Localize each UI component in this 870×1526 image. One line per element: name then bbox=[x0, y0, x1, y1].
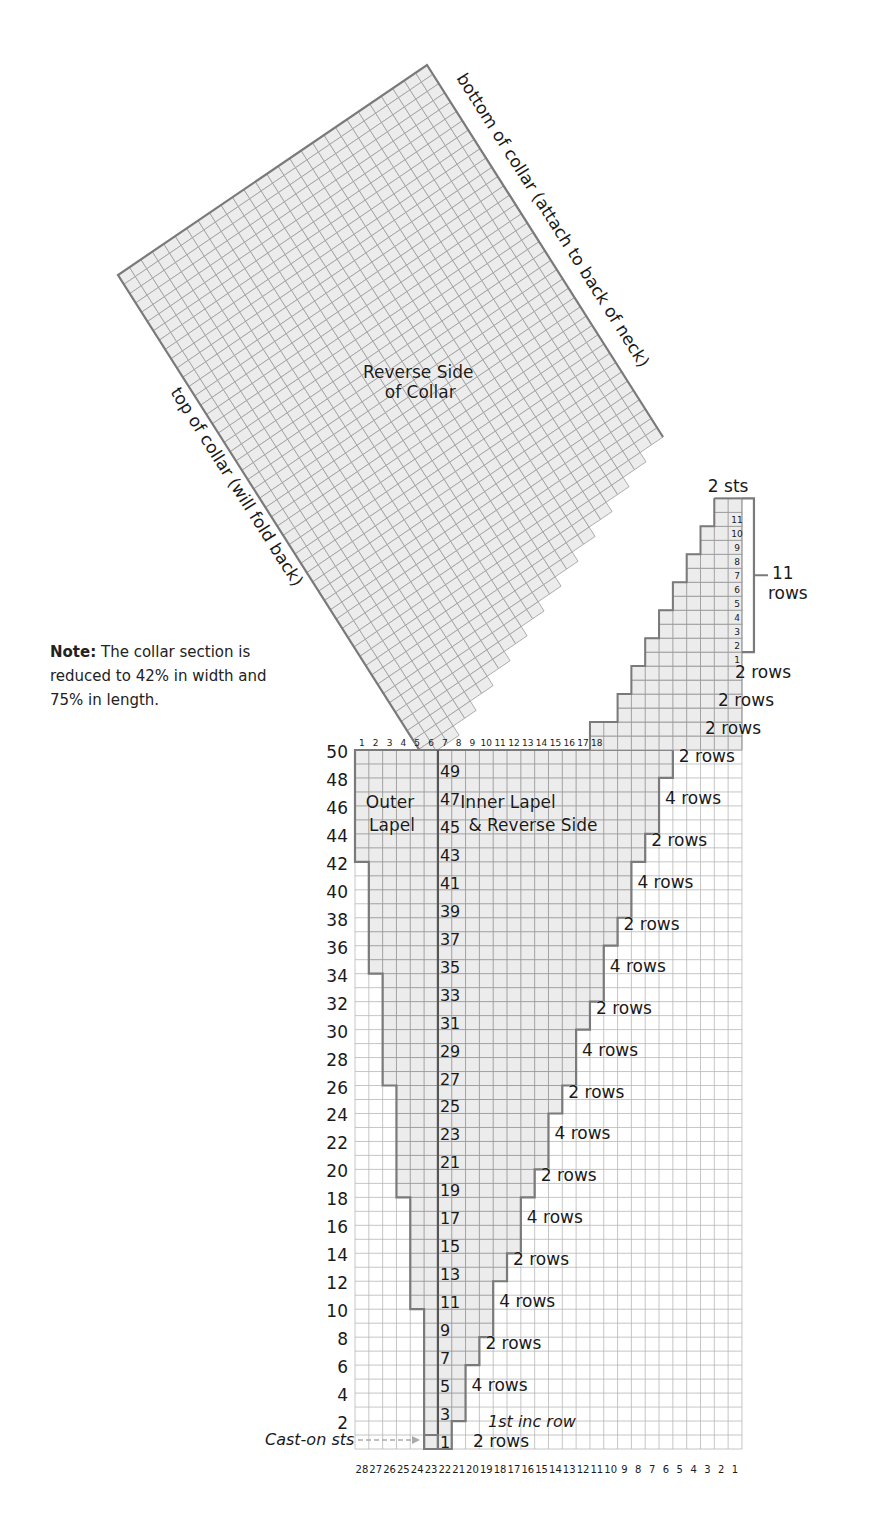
col-number-bottom: 17 bbox=[508, 1464, 521, 1475]
row-number-even: 28 bbox=[326, 1050, 348, 1070]
step-label: 4 rows bbox=[527, 1207, 583, 1227]
row-number-even: 46 bbox=[326, 798, 348, 818]
col-number-bottom: 7 bbox=[649, 1464, 655, 1475]
cast-on-label: Cast-on sts bbox=[265, 1430, 354, 1449]
col-number-bottom: 9 bbox=[621, 1464, 627, 1475]
col-number-bottom: 19 bbox=[480, 1464, 493, 1475]
col-number-bottom: 4 bbox=[690, 1464, 696, 1475]
step-label: 2 rows bbox=[596, 998, 652, 1018]
row-number-odd: 19 bbox=[440, 1181, 460, 1200]
col-number-top: 18 bbox=[591, 738, 603, 748]
step-label: 2 rows bbox=[679, 746, 735, 766]
row-number-odd: 31 bbox=[440, 1014, 460, 1033]
col-number-top: 10 bbox=[481, 738, 493, 748]
row-number-even: 24 bbox=[326, 1105, 348, 1125]
row-number-odd: 33 bbox=[440, 986, 460, 1005]
step-label: 2 rows bbox=[485, 1333, 541, 1353]
col-number-top: 8 bbox=[456, 738, 462, 748]
step-label: 2 rows bbox=[651, 830, 707, 850]
upper-row-number: 11 bbox=[731, 515, 742, 525]
knitting-chart: 12345678910112 sts11rows2468101214161820… bbox=[0, 0, 870, 1526]
row-number-odd: 39 bbox=[440, 902, 460, 921]
row-number-even: 4 bbox=[337, 1385, 348, 1405]
upper-row-number: 10 bbox=[731, 529, 743, 539]
step-label: 2 rows bbox=[735, 662, 791, 682]
step-label: 2 rows bbox=[705, 718, 761, 738]
col-number-bottom: 22 bbox=[438, 1464, 451, 1475]
row-number-even: 38 bbox=[326, 910, 348, 930]
step-label: 4 rows bbox=[472, 1375, 528, 1395]
upper-row-number: 3 bbox=[734, 627, 740, 637]
col-number-top: 14 bbox=[536, 738, 548, 748]
step-label: 4 rows bbox=[637, 872, 693, 892]
col-number-top: 15 bbox=[550, 738, 561, 748]
step-label: 2 rows bbox=[624, 914, 680, 934]
first-inc-row-label: 1st inc row bbox=[488, 1412, 577, 1431]
col-number-top: 1 bbox=[359, 738, 365, 748]
upper-row-number: 8 bbox=[734, 557, 740, 567]
col-number-bottom: 27 bbox=[369, 1464, 382, 1475]
row-number-even: 16 bbox=[326, 1217, 348, 1237]
width-label: 2 sts bbox=[708, 476, 749, 496]
row-number-odd: 25 bbox=[440, 1097, 460, 1116]
upper-row-number: 2 bbox=[734, 641, 740, 651]
row-number-even: 14 bbox=[326, 1245, 348, 1265]
row-number-odd: 27 bbox=[440, 1070, 460, 1089]
step-label: 4 rows bbox=[554, 1123, 610, 1143]
row-number-even: 32 bbox=[326, 994, 348, 1014]
col-number-top: 9 bbox=[470, 738, 476, 748]
col-number-top: 6 bbox=[428, 738, 434, 748]
row-number-even: 12 bbox=[326, 1273, 348, 1293]
col-number-bottom: 2 bbox=[718, 1464, 724, 1475]
col-number-bottom: 24 bbox=[411, 1464, 424, 1475]
col-number-bottom: 20 bbox=[466, 1464, 479, 1475]
row-number-even: 50 bbox=[326, 742, 348, 762]
row-number-even: 20 bbox=[326, 1161, 348, 1181]
row-number-odd: 17 bbox=[440, 1209, 460, 1228]
row-number-even: 18 bbox=[326, 1189, 348, 1209]
row-number-even: 48 bbox=[326, 770, 348, 790]
note-bold: Note: bbox=[50, 643, 96, 661]
row-number-odd: 49 bbox=[440, 762, 460, 781]
upper-row-number: 5 bbox=[734, 599, 740, 609]
col-number-top: 13 bbox=[522, 738, 533, 748]
upper-row-number: 7 bbox=[734, 571, 740, 581]
step-label: 2 rows bbox=[541, 1165, 597, 1185]
row-number-even: 42 bbox=[326, 854, 348, 874]
collar-note: Note: The collar section is reduced to 4… bbox=[50, 640, 290, 712]
row-number-even: 22 bbox=[326, 1133, 348, 1153]
step-label: 4 rows bbox=[499, 1291, 555, 1311]
col-number-top: 4 bbox=[401, 738, 407, 748]
outer-lapel-label: Lapel bbox=[369, 815, 415, 835]
collar-center-label: Reverse Side bbox=[363, 362, 474, 382]
collar-center-label: of Collar bbox=[385, 382, 456, 402]
row-number-even: 30 bbox=[326, 1022, 348, 1042]
col-number-top: 5 bbox=[414, 738, 420, 748]
col-number-bottom: 1 bbox=[732, 1464, 738, 1475]
row-number-even: 44 bbox=[326, 826, 348, 846]
col-number-top: 16 bbox=[563, 738, 575, 748]
row-number-odd: 9 bbox=[440, 1321, 450, 1340]
rows-count-label: 11 bbox=[772, 563, 794, 583]
row-number-odd: 23 bbox=[440, 1125, 460, 1144]
row-number-odd: 35 bbox=[440, 958, 460, 977]
col-number-bottom: 21 bbox=[452, 1464, 465, 1475]
col-number-bottom: 28 bbox=[356, 1464, 369, 1475]
col-number-bottom: 10 bbox=[604, 1464, 617, 1475]
col-number-top: 3 bbox=[387, 738, 393, 748]
col-number-bottom: 8 bbox=[635, 1464, 641, 1475]
col-number-bottom: 16 bbox=[521, 1464, 534, 1475]
rows-text-label: rows bbox=[768, 583, 808, 603]
row-number-odd: 43 bbox=[440, 846, 460, 865]
col-number-bottom: 12 bbox=[577, 1464, 590, 1475]
col-number-bottom: 5 bbox=[677, 1464, 683, 1475]
step-label: 4 rows bbox=[610, 956, 666, 976]
step-label: 2 rows bbox=[513, 1249, 569, 1269]
row-number-odd: 37 bbox=[440, 930, 460, 949]
step-label: 4 rows bbox=[665, 788, 721, 808]
step-label: 4 rows bbox=[582, 1040, 638, 1060]
col-number-bottom: 6 bbox=[663, 1464, 669, 1475]
col-number-top: 11 bbox=[494, 738, 505, 748]
step-label: 2 rows bbox=[718, 690, 774, 710]
col-number-top: 7 bbox=[442, 738, 448, 748]
